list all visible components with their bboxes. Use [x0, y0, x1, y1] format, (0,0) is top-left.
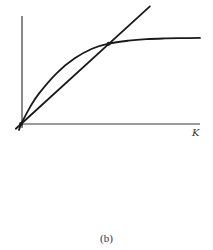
origin-point — [19, 122, 23, 126]
figure-caption: (b) — [0, 232, 213, 244]
chart: K — [0, 0, 213, 140]
series-concave-saturating-curve — [19, 38, 200, 130]
intersection-point — [107, 42, 111, 46]
series-straight-line-through-origin — [16, 6, 150, 128]
series-layer — [16, 6, 200, 130]
x-axis-label: K — [191, 127, 200, 138]
